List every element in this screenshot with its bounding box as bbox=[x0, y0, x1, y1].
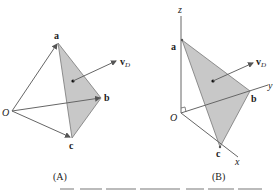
label-c: c bbox=[69, 140, 74, 151]
label-b: b bbox=[251, 93, 257, 104]
panel-b: z y x a b c O vD (B) bbox=[170, 4, 273, 183]
label-vd: vD bbox=[120, 56, 130, 69]
edge-oc bbox=[12, 111, 70, 137]
panel-caption-b: (B) bbox=[212, 171, 225, 183]
label-z-axis: z bbox=[177, 4, 182, 15]
point-a-dot bbox=[181, 39, 183, 41]
label-a: a bbox=[171, 41, 176, 52]
label-origin: O bbox=[170, 112, 177, 123]
panel-caption-a: (A) bbox=[53, 171, 67, 183]
diagram-canvas: a b c O vD (A) z y x a b c O vD (B) bbox=[0, 0, 277, 190]
label-origin: O bbox=[2, 107, 9, 118]
label-y-axis: y bbox=[267, 80, 273, 91]
shaded-face-abc bbox=[58, 43, 101, 138]
label-b: b bbox=[104, 92, 110, 103]
edge-oa bbox=[12, 44, 57, 111]
shaded-face-abc bbox=[182, 40, 250, 147]
label-a: a bbox=[54, 30, 59, 41]
label-x-axis: x bbox=[234, 156, 240, 167]
figure-caption-cutoff bbox=[60, 188, 262, 190]
label-vd: vD bbox=[256, 56, 266, 69]
label-c: c bbox=[216, 148, 221, 159]
panel-a: a b c O vD (A) bbox=[2, 30, 130, 183]
